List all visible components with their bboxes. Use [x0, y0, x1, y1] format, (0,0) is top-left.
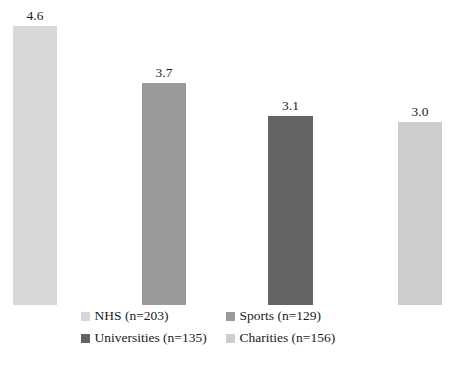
bar-value-label: 3.7: [156, 66, 173, 80]
legend-swatch-icon: [226, 334, 235, 343]
bar-value-label: 4.6: [27, 9, 44, 23]
legend-item-label: NHS (n=203): [95, 309, 169, 323]
bar-group-sports: 3.7: [142, 4, 186, 305]
bar-value-label: 3.0: [412, 105, 429, 119]
legend-swatch-icon: [226, 312, 235, 321]
legend-swatch-icon: [81, 334, 90, 343]
legend-row-1: NHS (n=203) Sports (n=129): [81, 307, 371, 325]
legend-swatch-icon: [81, 312, 90, 321]
bar-nhs: [13, 26, 57, 305]
bar-value-label: 3.1: [282, 99, 299, 113]
bar-group-charities: 3.0: [398, 4, 442, 305]
bar-group-nhs: 4.6: [13, 4, 57, 305]
chart-legend: NHS (n=203) Sports (n=129) Universities …: [0, 307, 451, 347]
legend-item-label: Charities (n=156): [240, 331, 336, 345]
bar-group-universities: 3.1: [268, 4, 313, 305]
bar-charities: [398, 122, 442, 305]
legend-item-nhs: NHS (n=203): [81, 309, 226, 323]
bar-sports: [142, 83, 186, 305]
legend-item-charities: Charities (n=156): [226, 331, 371, 345]
legend-row-2: Universities (n=135) Charities (n=156): [81, 329, 371, 347]
bar-universities: [268, 116, 313, 305]
legend-item-label: Universities (n=135): [95, 331, 207, 345]
legend-item-label: Sports (n=129): [240, 309, 322, 323]
legend-item-universities: Universities (n=135): [81, 331, 226, 345]
bar-chart: 4.6 3.7 3.1 3.0: [0, 0, 451, 305]
legend-item-sports: Sports (n=129): [226, 309, 371, 323]
